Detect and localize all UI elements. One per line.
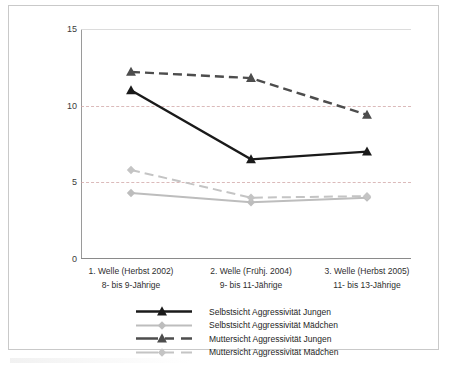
x-axis-label-line1: 1. Welle (Herbst 2002) <box>89 266 174 276</box>
page-artifact <box>10 358 190 363</box>
x-axis-label-2: 2. Welle (Frühj. 2004)9- bis 11-Jährige <box>210 264 292 292</box>
legend-item-label: Selbstsicht Aggressivität Jungen <box>209 307 331 317</box>
x-axis-label-line2: 8- bis 9-Jährige <box>89 278 174 292</box>
x-axis-label-line1: 2. Welle (Frühj. 2004) <box>210 266 292 276</box>
x-axis-label-line1: 3. Welle (Herbst 2005) <box>325 266 410 276</box>
y-tick-label-5: 5 <box>72 178 77 187</box>
legend-key-triangle-icon <box>134 332 196 345</box>
chart-figure: 15 10 5 0 1. Welle (Herbst 2002)8- bis 9… <box>8 5 439 350</box>
legend-item-1: Selbstsicht Aggressivität Mädchen <box>134 319 434 333</box>
x-axis-label-3: 3. Welle (Herbst 2005)11- bis 13-Jährige <box>325 264 410 292</box>
legend-key-diamond-icon <box>134 319 196 332</box>
y-tick-label-15: 15 <box>67 25 77 34</box>
y-tick-label-0: 0 <box>72 255 77 264</box>
legend-key-triangle-icon <box>134 305 196 318</box>
plot-area: 15 10 5 0 <box>81 29 411 259</box>
series-2 <box>126 67 372 119</box>
chart-legend: Selbstsicht Aggressivität JungenSelbstsi… <box>134 305 434 359</box>
y-tick-label-10: 10 <box>67 101 77 110</box>
x-axis-label-1: 1. Welle (Herbst 2002)8- bis 9-Jährige <box>89 264 174 292</box>
legend-item-3: Muttersicht Aggressivität Mädchen <box>134 346 434 360</box>
legend-key-diamond-icon <box>134 346 196 359</box>
legend-item-2: Muttersicht Aggressivität Jungen <box>134 332 434 346</box>
legend-item-label: Muttersicht Aggressivität Mädchen <box>209 347 338 357</box>
series-layer <box>81 29 411 259</box>
series-0 <box>126 85 372 163</box>
legend-item-0: Selbstsicht Aggressivität Jungen <box>134 305 434 319</box>
x-axis-label-line2: 11- bis 13-Jährige <box>325 278 410 292</box>
x-axis-labels: 1. Welle (Herbst 2002)8- bis 9-Jährige2.… <box>81 264 411 298</box>
legend-item-label: Muttersicht Aggressivität Jungen <box>209 334 331 344</box>
x-axis-label-line2: 9- bis 11-Jährige <box>210 278 292 292</box>
legend-item-label: Selbstsicht Aggressivität Mädchen <box>209 320 338 330</box>
